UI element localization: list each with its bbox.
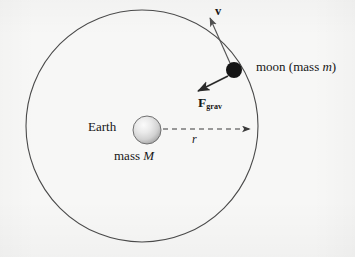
moon-label: moon (mass m) xyxy=(256,60,336,73)
velocity-vector-label: v xyxy=(215,5,221,18)
earth-label: Earth xyxy=(88,120,116,133)
orbit-diagram-canvas xyxy=(0,0,355,257)
moon-dot xyxy=(226,62,242,78)
earth-mass-label: mass M xyxy=(114,149,154,162)
velocity-arrow xyxy=(210,18,230,63)
physics-diagram-figure: moon (mass m) Earth mass M v r Fgrav xyxy=(0,0,355,257)
gravity-force-label: Fgrav xyxy=(198,96,222,111)
radius-label: r xyxy=(192,133,197,145)
earth-sphere xyxy=(133,116,161,144)
gravity-force-arrow xyxy=(198,76,228,91)
